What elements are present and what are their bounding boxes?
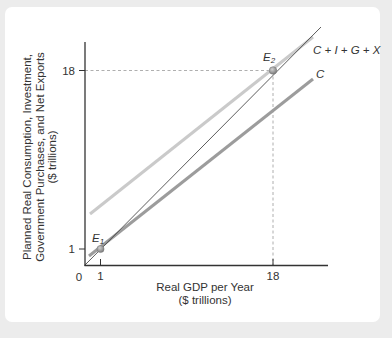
y-tick-label-1: 1 (69, 243, 75, 255)
equilibrium-point-e2 (269, 67, 277, 75)
x-tick-label-18: 18 (267, 270, 280, 282)
origin-label: 0 (76, 271, 82, 283)
aggregate-expenditure-line (90, 37, 313, 214)
e2-label: E2 (263, 51, 276, 65)
aggregate-expenditure-label: C + I + G + X (313, 44, 382, 56)
y-axis-label: Planned Real Consumption, Investment, Go… (21, 52, 59, 262)
consumption-label: C (316, 68, 325, 80)
equilibrium-point-e1 (97, 245, 104, 252)
y-tick-label-18: 18 (62, 65, 75, 77)
forty-five-degree-line (85, 27, 321, 265)
consumption-line (89, 79, 313, 256)
e1-label: E1 (92, 232, 104, 246)
x-tick-label-1: 1 (97, 270, 103, 282)
x-axis-label: Real GDP per Year ($ trillions) (156, 281, 254, 307)
